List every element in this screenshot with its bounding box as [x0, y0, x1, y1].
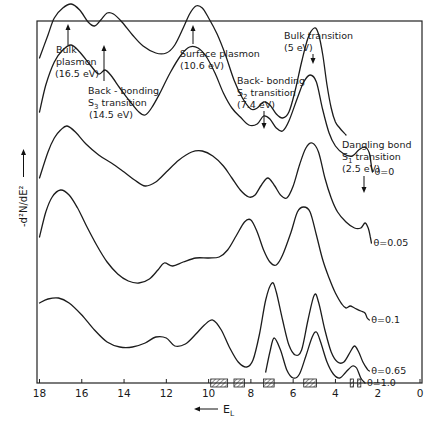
- annotation-text: Surface plasmon: [180, 48, 260, 59]
- annotation-bulk-plasmon: Bulk plasmon (16.5 eV): [55, 24, 99, 79]
- arrow-down-icon: [362, 187, 367, 193]
- curve-label: θ=0.05: [373, 237, 408, 248]
- annotation-text: Back - bonding: [88, 85, 159, 96]
- curve-theta-0.65: [40, 283, 370, 371]
- x-axis-label-text: EL: [223, 403, 235, 418]
- x-tick-label: 8: [248, 387, 255, 399]
- annotation-bulk-transition: Bulk transition (5 eV): [284, 30, 353, 64]
- annotation-surface-plasmon: Surface plasmon (10.6 eV): [180, 25, 260, 71]
- arrow-up-icon: [66, 24, 71, 30]
- hatched-region: [264, 379, 275, 387]
- spectra-chart: 181614121086420 θ=0θ=0.05θ=0.1θ=0.65θ=1.…: [0, 0, 437, 431]
- annotation-text: Back- bonding: [237, 75, 305, 86]
- annotation-dangling-bond-s1: Dangling bond S1 transition (2.5 eV): [342, 139, 411, 193]
- annotation-text: (14.5 eV): [89, 109, 133, 120]
- hatched-region: [304, 379, 317, 387]
- x-tick-label: 14: [117, 387, 131, 399]
- x-tick-label: 18: [33, 387, 46, 399]
- curve-label: θ=0.65: [371, 365, 406, 376]
- curve-theta-1.0: [266, 332, 365, 383]
- annotation-text: Dangling bond: [342, 139, 411, 150]
- curve-label: θ=1.0: [367, 377, 396, 388]
- x-tick-label: 6: [290, 387, 297, 399]
- y-axis-label-text: -d²N/dE²: [18, 186, 29, 228]
- annotation-text: Bulk transition: [284, 30, 353, 41]
- annotation-text: (16.5 eV): [55, 68, 99, 79]
- x-tick-label: 10: [202, 387, 215, 399]
- hatched-region: [234, 379, 245, 387]
- arrow-down-icon: [262, 123, 267, 129]
- annotation-back-bonding-s3: Back - bonding S3 transition (14.5 eV): [88, 45, 159, 120]
- annotation-text: (7.4 eV): [237, 99, 275, 110]
- annotation-text: (2.5 eV): [342, 163, 380, 174]
- x-tick-label: 4: [332, 387, 339, 399]
- x-tick-label: 16: [75, 387, 89, 399]
- x-tick-label: 2: [374, 387, 381, 399]
- curve-label: θ=0.1: [371, 314, 400, 325]
- annotation-text: Bulk: [56, 44, 77, 55]
- curve-theta-0.05: [40, 126, 372, 243]
- hatched-region: [358, 379, 361, 387]
- arrow-up-icon: [102, 45, 107, 51]
- x-tick-label: 12: [160, 387, 173, 399]
- x-axis-label: EL: [194, 403, 235, 418]
- y-axis-label: -d²N/dE²: [18, 149, 29, 227]
- curve-theta-0.1: [40, 190, 370, 320]
- hatched-region: [350, 379, 353, 387]
- annotation-text: (10.6 eV): [180, 60, 224, 71]
- theta-labels: θ=0θ=0.05θ=0.1θ=0.65θ=1.0: [367, 166, 408, 388]
- arrow-up-icon: [191, 25, 196, 31]
- annotation-text: (5 eV): [284, 42, 313, 53]
- x-tick-label: 0: [417, 387, 424, 399]
- arrow-up-icon: [21, 149, 26, 155]
- hatched-region: [211, 379, 228, 387]
- arrow-left-icon: [194, 407, 200, 412]
- arrow-down-icon: [311, 58, 316, 64]
- annotation-text: plasmon: [56, 56, 97, 67]
